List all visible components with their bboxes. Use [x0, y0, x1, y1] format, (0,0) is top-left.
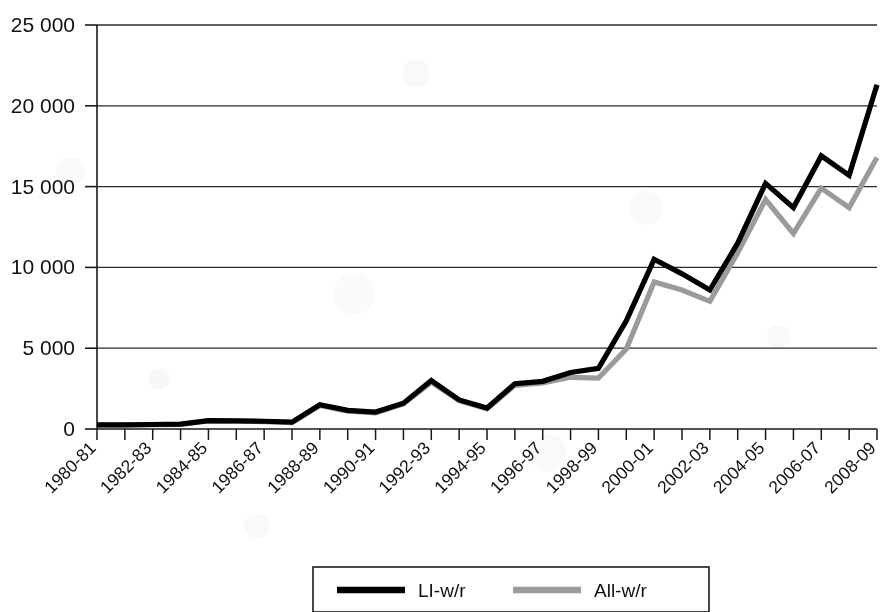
x-axis-tick-label: 1998-99 [542, 438, 602, 498]
gridlines [97, 25, 877, 348]
y-axis-tick-label: 20 000 [11, 94, 75, 117]
data-series-group [97, 85, 877, 425]
x-axis-tick-label: 1982-83 [96, 438, 156, 498]
x-axis-tick-label: 1990-91 [319, 438, 379, 498]
x-axis-tick-label: 1984-85 [152, 438, 212, 498]
legend-label-li-wr: LI-w/r [418, 580, 466, 601]
y-axis-tick-label: 10 000 [11, 255, 75, 278]
x-axis-tick-label: 2004-05 [709, 438, 769, 498]
y-axis-tick-labels: 05 00010 00015 00020 00025 000 [11, 13, 75, 440]
x-axis-tick-label: 2000-01 [597, 438, 657, 498]
x-axis-tick-label: 2002-03 [653, 438, 713, 498]
y-axis-tick-label: 15 000 [11, 175, 75, 198]
x-axis-tick-label: 1994-95 [430, 438, 490, 498]
chart-legend: LI-w/r All-w/r [313, 567, 709, 612]
x-axis-tick-label: 1988-89 [263, 438, 323, 498]
x-axis-tick-label: 1996-97 [486, 438, 546, 498]
line-chart: 05 00010 00015 00020 00025 000 1980-8119… [0, 0, 885, 612]
series-line-li-w-r [97, 85, 877, 425]
legend-label-all-wr: All-w/r [594, 580, 647, 601]
x-axis-tick-label: 1992-93 [375, 438, 435, 498]
x-axis-tick-label: 2006-07 [765, 438, 825, 498]
x-axis-tick-labels: 1980-811982-831984-851986-871988-891990-… [40, 438, 880, 498]
y-axis-ticks [85, 25, 97, 429]
x-axis-ticks [97, 429, 877, 440]
x-axis-tick-label: 2008-09 [820, 438, 880, 498]
x-axis-tick-label: 1980-81 [40, 438, 100, 498]
x-axis-tick-label: 1986-87 [207, 438, 267, 498]
chart-page: 05 00010 00015 00020 00025 000 1980-8119… [0, 0, 885, 612]
y-axis-tick-label: 0 [63, 417, 75, 440]
y-axis-tick-label: 25 000 [11, 13, 75, 36]
y-axis-tick-label: 5 000 [22, 336, 75, 359]
